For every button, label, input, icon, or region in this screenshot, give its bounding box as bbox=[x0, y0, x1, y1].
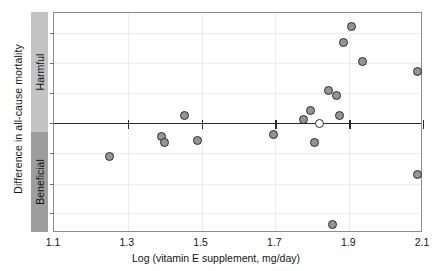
reference-line-tick bbox=[275, 120, 276, 129]
plot-area bbox=[53, 12, 422, 232]
y-axis-tick bbox=[50, 33, 54, 34]
reference-line-tick bbox=[423, 120, 424, 129]
y-axis-tick bbox=[50, 63, 54, 64]
gridline-horizontal bbox=[54, 93, 421, 94]
x-axis-tick-label: 1.5 bbox=[193, 236, 208, 248]
data-point-marker bbox=[332, 91, 341, 100]
data-point-marker bbox=[347, 22, 356, 31]
gridline-horizontal bbox=[54, 213, 421, 214]
reference-line-tick bbox=[202, 120, 203, 129]
data-point-marker bbox=[328, 220, 337, 229]
y-axis-tick bbox=[50, 153, 54, 154]
direction-band-harmful-label: Harmful bbox=[34, 54, 46, 91]
vitamin-e-mortality-scatter-figure: Difference in all-cause mortality Harmfu… bbox=[0, 0, 432, 271]
data-point-marker bbox=[310, 138, 319, 147]
data-point-marker bbox=[335, 111, 344, 120]
y-axis-tick bbox=[50, 93, 54, 94]
data-point-marker bbox=[105, 152, 114, 161]
data-point-marker bbox=[413, 67, 422, 76]
x-axis-tick-label: 1.9 bbox=[341, 236, 356, 248]
data-point-marker bbox=[299, 115, 308, 124]
gridline-horizontal bbox=[54, 33, 421, 34]
x-axis-tick-label: 1.7 bbox=[267, 236, 282, 248]
reference-line-tick bbox=[349, 120, 350, 129]
direction-band-harmful: Harmful bbox=[31, 12, 48, 132]
x-axis-tick-label: 2.1 bbox=[415, 236, 430, 248]
data-point-marker bbox=[269, 130, 278, 139]
gridline-horizontal bbox=[54, 184, 421, 185]
y-axis-title: Difference in all-cause mortality bbox=[12, 9, 24, 229]
data-point-marker bbox=[413, 170, 422, 179]
data-point-marker bbox=[358, 57, 367, 66]
reference-line-zero bbox=[54, 123, 421, 124]
direction-band-beneficial: Beneficial bbox=[31, 132, 48, 232]
data-point-marker bbox=[339, 38, 348, 47]
data-point-marker bbox=[306, 106, 315, 115]
x-axis-tick-label: 1.1 bbox=[46, 236, 61, 248]
reference-line-tick bbox=[128, 120, 129, 129]
y-axis-tick bbox=[50, 213, 54, 214]
data-point-marker bbox=[160, 138, 169, 147]
pooled-estimate-marker bbox=[315, 119, 324, 128]
x-axis-title: Log (vitamin E supplement, mg/day) bbox=[0, 252, 432, 264]
y-axis-tick bbox=[50, 184, 54, 185]
direction-band-beneficial-label: Beneficial bbox=[34, 159, 46, 205]
x-axis-tick-label: 1.3 bbox=[119, 236, 134, 248]
data-point-marker bbox=[180, 111, 189, 120]
